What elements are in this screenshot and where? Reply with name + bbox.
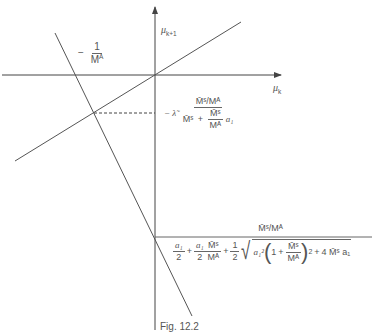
den-tail: a₁ <box>226 114 234 124</box>
slope-label: − 1 MA <box>76 42 105 65</box>
slope-denominator: MA <box>89 54 106 65</box>
den-inner-num: M̄ˢ <box>208 109 223 120</box>
term3-num: 1 <box>230 241 239 252</box>
paren-frac-num: M̄ˢ <box>286 242 301 253</box>
plus-sign-2: + <box>221 247 230 256</box>
intersection-numerator: M̄ˢ/Mᴬ <box>194 97 223 108</box>
tail-term: 4 M̄ˢ a₁ <box>322 248 351 257</box>
intercept-numerator: M̄ˢ/Mᴬ <box>173 224 368 236</box>
intersection-label: − λ̃ M̄ˢ/Mᴬ M̄ˢ + M̄ˢ Mᴬ a₁ <box>162 97 235 130</box>
minus-sign: − <box>76 47 86 58</box>
term2-ratio-den: Mᴬ <box>206 252 222 262</box>
term3-fraction: 1 2 <box>230 241 239 262</box>
term1-fraction: a₁ 2 <box>173 241 185 262</box>
y-axis-label: μk+1 <box>161 25 177 35</box>
term2-fraction: a₁ 2 <box>194 241 206 262</box>
den-term1: M̄ˢ <box>183 114 194 124</box>
slope-den-base: M <box>91 54 99 65</box>
square-root: √ a₁² ( 1 + M̄ˢ Mᴬ )2 + 4 M̄ˢ a₁ <box>239 239 351 263</box>
root-a-squared: a₁² <box>254 248 264 257</box>
paren-close: ) <box>301 241 308 263</box>
intersection-fraction: M̄ˢ/Mᴬ M̄ˢ + M̄ˢ Mᴬ a₁ <box>181 97 236 130</box>
plus-sign-3: + <box>276 248 285 257</box>
intersection-denominator: M̄ˢ + M̄ˢ Mᴬ a₁ <box>181 108 236 130</box>
den-inner-fraction: M̄ˢ Mᴬ <box>208 109 224 130</box>
x-axis-label: μk <box>273 83 281 93</box>
x-axis-subscript: k <box>278 88 281 95</box>
term1-den: 2 <box>174 252 183 262</box>
lambda-prefix: − λ̃ <box>162 108 178 118</box>
term1-num: a₁ <box>173 241 185 252</box>
intercept-label: M̄ˢ/Mᴬ a₁ 2 + a₁ 2 M̄ˢ Mᴬ + 1 2 √ <box>173 224 368 263</box>
paren-fraction: M̄ˢ Mᴬ <box>286 242 302 263</box>
diagram-lines <box>0 0 382 334</box>
slope-den-sup: A <box>99 53 103 60</box>
term2-ratio-num: M̄ˢ <box>206 241 221 252</box>
rising-line <box>15 22 241 161</box>
figure-caption: Fig. 12.2 <box>160 322 199 332</box>
paren-open: ( <box>264 241 271 263</box>
radicand: a₁² ( 1 + M̄ˢ Mᴬ )2 + 4 M̄ˢ a₁ <box>252 239 352 263</box>
slope-fraction: 1 MA <box>89 42 106 65</box>
term3-den: 2 <box>230 252 239 262</box>
radical-sign-icon: √ <box>241 239 250 263</box>
figure-canvas: μk+1 μk − 1 MA − λ̃ M̄ˢ/Mᴬ M̄ˢ + M̄ˢ Mᴬ … <box>0 0 382 334</box>
term2-ratio-fraction: M̄ˢ Mᴬ <box>206 241 222 262</box>
den-inner-den: Mᴬ <box>208 120 224 130</box>
intercept-denominator: a₁ 2 + a₁ 2 M̄ˢ Mᴬ + 1 2 √ a₁² ( <box>173 236 368 263</box>
plus-sign-4: + <box>312 248 321 257</box>
plus-sign: + <box>196 114 205 124</box>
paren-frac-den: Mᴬ <box>286 253 302 263</box>
plus-sign-1: + <box>185 247 194 256</box>
y-axis-subscript: k+1 <box>166 30 177 37</box>
term2-num: a₁ <box>194 241 206 252</box>
term2-den: 2 <box>195 252 204 262</box>
